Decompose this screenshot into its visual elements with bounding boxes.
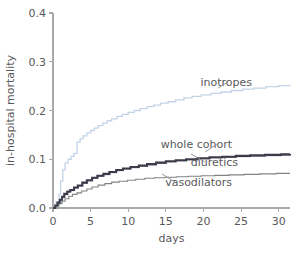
- y-tick-label: 0.4: [29, 7, 47, 20]
- series-label-whole-cohort: whole cohort: [161, 138, 233, 151]
- x-tick-label: 5: [87, 215, 94, 228]
- y-tick-label: 0.3: [29, 56, 47, 69]
- x-tick-label: 15: [159, 215, 173, 228]
- x-tick-label: 25: [234, 215, 248, 228]
- series-label-vasodilators: vasodilators: [165, 176, 232, 189]
- y-axis-title: in-hospital mortality: [4, 54, 17, 166]
- x-tick-label: 20: [196, 215, 210, 228]
- mortality-line-chart: 0.00.10.20.30.4051015202530 inotropeswho…: [0, 0, 300, 254]
- series-label-inotropes: inotropes: [200, 76, 252, 89]
- series-annotations: inotropeswhole cohortdiureticsvasodilato…: [161, 76, 253, 189]
- y-tick-label: 0.1: [29, 153, 47, 166]
- x-tick-label: 0: [50, 215, 57, 228]
- y-tick-label: 0.0: [29, 202, 47, 215]
- x-tick-label: 10: [121, 215, 135, 228]
- x-tick-label: 30: [272, 215, 286, 228]
- chart-figure: 0.00.10.20.30.4051015202530 inotropeswho…: [0, 0, 300, 254]
- y-tick-label: 0.2: [29, 105, 47, 118]
- axis-titles: daysin-hospital mortality: [4, 54, 185, 245]
- x-axis-title: days: [159, 232, 185, 245]
